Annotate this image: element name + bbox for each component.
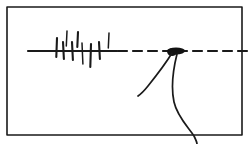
tick-mark xyxy=(82,43,83,64)
tick-mark xyxy=(90,44,91,67)
tick-mark xyxy=(66,31,67,46)
tick-mark xyxy=(72,42,73,60)
tick-mark xyxy=(108,33,109,48)
sketch-figure xyxy=(0,0,251,144)
tick-mark xyxy=(63,42,64,59)
border-frame xyxy=(7,7,242,135)
left-descending-curve xyxy=(138,53,172,96)
tick-mark xyxy=(99,42,100,59)
right-s-curve xyxy=(173,54,197,144)
tick-mark xyxy=(77,32,78,47)
tick-mark-group xyxy=(56,31,109,67)
tick-mark xyxy=(56,38,57,57)
sketch-canvas xyxy=(0,0,251,144)
